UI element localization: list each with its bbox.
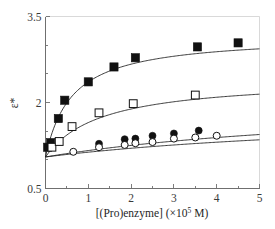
x-tick-label: 5 xyxy=(257,192,263,204)
chart-figure: 012345 0.523.5 [(Pro)enzyme] (×105 M) ε* xyxy=(0,0,275,229)
marker-open-circle xyxy=(192,134,199,141)
marker-filled-square xyxy=(234,39,242,47)
marker-open-square xyxy=(68,123,76,131)
marker-open-square xyxy=(55,138,63,146)
x-axis-tick-labels: 012345 xyxy=(43,192,263,204)
y-axis-title: ε* xyxy=(8,97,20,108)
x-axis-title: [(Pro)enzyme] (×105 M) xyxy=(96,206,209,220)
marker-filled-square xyxy=(110,63,118,71)
marker-filled-square xyxy=(61,96,69,104)
marker-open-square xyxy=(95,109,103,117)
chart-tick-marks xyxy=(46,17,260,189)
marker-filled-square xyxy=(84,78,92,86)
marker-filled-circle xyxy=(195,127,202,134)
marker-open-circle xyxy=(121,141,128,148)
marker-open-circle xyxy=(70,148,77,155)
axis-spines xyxy=(46,17,260,189)
y-tick-label: 0.5 xyxy=(27,183,42,195)
marker-filled-square xyxy=(193,43,201,51)
x-tick-label: 1 xyxy=(85,192,91,204)
x-tick-label: 2 xyxy=(128,192,134,204)
marker-open-circle xyxy=(170,135,177,142)
marker-open-square xyxy=(191,91,199,99)
marker-open-circle xyxy=(149,139,156,146)
x-tick-label: 0 xyxy=(43,192,49,204)
marker-filled-square xyxy=(131,54,139,62)
marker-open-circle xyxy=(96,144,103,151)
chart-axes xyxy=(46,17,260,189)
x-tick-label: 3 xyxy=(171,192,177,204)
x-tick-label: 4 xyxy=(214,192,220,204)
y-axis-tick-labels: 0.523.5 xyxy=(27,11,42,195)
y-tick-label: 3.5 xyxy=(27,11,42,23)
marker-open-square xyxy=(48,143,56,151)
y-tick-label: 2 xyxy=(36,97,42,109)
fit-curve-open-squares xyxy=(46,94,260,157)
marker-filled-square xyxy=(54,114,62,122)
marker-open-square xyxy=(129,100,137,108)
marker-open-circle xyxy=(132,140,139,147)
chart-plot-area: 012345 0.523.5 [(Pro)enzyme] (×105 M) ε* xyxy=(0,0,275,229)
marker-open-circle xyxy=(213,132,220,139)
